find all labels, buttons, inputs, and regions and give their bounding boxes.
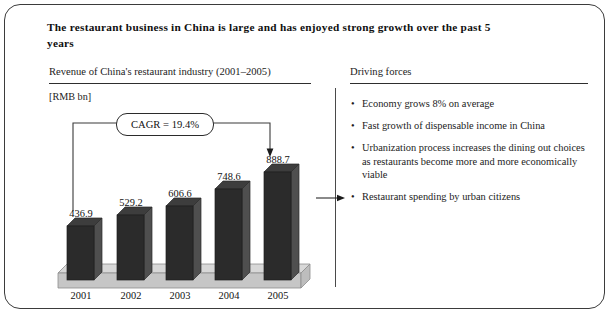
bar-2001 <box>67 218 102 280</box>
list-item-text: Restaurant spending by urban citizens <box>362 191 520 202</box>
bar-value-2005: 888.7 <box>248 154 308 165</box>
slide-frame: The restaurant business in China is larg… <box>4 4 605 309</box>
cagr-annotation-badge: CAGR = 19.4% <box>116 113 214 136</box>
list-item: • Restaurant spending by urban citizens <box>350 190 590 204</box>
bar-value-2003: 606.6 <box>150 188 210 199</box>
list-item: • Fast growth of dispensable income in C… <box>350 119 590 133</box>
driving-forces-list: • Economy grows 8% on average • Fast gro… <box>350 97 590 213</box>
bar-category-2005: 2005 <box>248 290 308 301</box>
bar-2005 <box>264 164 299 280</box>
bar-value-2001: 436.9 <box>51 208 111 219</box>
list-item: • Economy grows 8% on average <box>350 97 590 111</box>
list-item: • Urbanization process increases the din… <box>350 141 590 182</box>
revenue-bar-chart: 436.9 529.2 606.6 748.6 888.7 2001 2002 … <box>5 5 335 310</box>
bar-2003 <box>166 198 201 280</box>
right-panel-divider-rule <box>350 83 588 84</box>
list-item-text: Urbanization process increases the dinin… <box>362 142 585 180</box>
bullet-dot-icon: • <box>351 141 355 155</box>
panel-vertical-divider <box>335 88 336 287</box>
bar-value-2004: 748.6 <box>199 171 259 182</box>
bar-2004 <box>215 181 250 280</box>
bullet-dot-icon: • <box>351 190 355 204</box>
list-item-text: Economy grows 8% on average <box>362 98 494 109</box>
bar-2002 <box>117 207 152 280</box>
bullet-dot-icon: • <box>351 97 355 111</box>
right-panel-header: Driving forces <box>350 66 411 77</box>
bullet-dot-icon: • <box>351 119 355 133</box>
list-item-text: Fast growth of dispensable income in Chi… <box>362 120 545 131</box>
